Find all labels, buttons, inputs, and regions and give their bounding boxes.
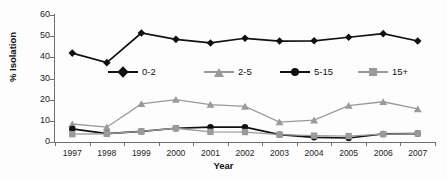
series-plot — [0, 0, 447, 178]
legend-swatch-diamond-icon — [108, 66, 138, 78]
legend-label: 2-5 — [238, 67, 252, 77]
data-point-diamond — [172, 36, 180, 44]
data-point-square — [242, 129, 248, 135]
legend-item-2-5[interactable]: 2-5 — [204, 64, 252, 80]
data-point-diamond — [241, 34, 249, 42]
legend-swatch-triangle-icon — [204, 66, 234, 78]
data-point-square — [207, 129, 213, 135]
data-point-square — [415, 130, 421, 136]
data-point-diamond — [207, 39, 215, 47]
legend-label: 5-15 — [314, 67, 333, 77]
data-point-square — [138, 128, 144, 134]
data-point-square — [345, 133, 351, 139]
data-point-diamond — [310, 37, 318, 45]
data-point-square — [104, 131, 110, 137]
data-point-diamond — [345, 33, 353, 41]
data-point-square — [173, 125, 179, 131]
chart-container: % Isolation Year 0102030405060 199719981… — [0, 0, 447, 178]
data-point-square — [311, 132, 317, 138]
chart-legend: 0-22-55-1515+ — [108, 64, 408, 80]
data-point-diamond — [379, 30, 387, 38]
legend-swatch-square-icon — [358, 66, 388, 78]
legend-label: 15+ — [392, 67, 408, 77]
data-point-diamond — [414, 37, 422, 45]
data-point-square — [380, 131, 386, 137]
data-point-diamond — [276, 37, 284, 45]
data-point-square — [276, 131, 282, 137]
legend-item-0-2[interactable]: 0-2 — [108, 64, 156, 80]
series-0-2 — [68, 29, 421, 66]
legend-label: 0-2 — [142, 67, 156, 77]
legend-item-5-15[interactable]: 5-15 — [280, 64, 333, 80]
data-point-square — [69, 131, 75, 137]
legend-item-15plus[interactable]: 15+ — [358, 64, 408, 80]
data-point-diamond — [68, 49, 76, 57]
legend-swatch-circle-icon — [280, 66, 310, 78]
